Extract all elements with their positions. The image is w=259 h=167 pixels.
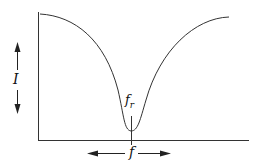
resonance-label-subscript: r: [130, 100, 134, 110]
x-axis-label: f: [127, 145, 136, 159]
resonance-frequency-label: fr: [125, 93, 134, 110]
resonance-diagram: [0, 0, 259, 167]
response-curve: [40, 14, 229, 131]
y-axis-label: I: [13, 72, 19, 86]
